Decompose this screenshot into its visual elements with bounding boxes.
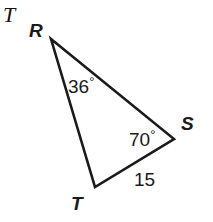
degree-symbol-icon: °	[150, 127, 155, 142]
vertex-label-r: R	[29, 21, 43, 40]
degree-symbol-icon: °	[89, 74, 94, 89]
triangle-rst-outline	[51, 39, 174, 187]
angle-s-value: 70	[129, 129, 150, 150]
angle-measure-r: 36°	[68, 77, 94, 96]
figure-tag-label: T	[3, 4, 15, 26]
vertex-label-s: S	[181, 114, 194, 133]
vertex-label-t: T	[71, 194, 83, 213]
geometry-figure: T R S T 36° 70° 15	[0, 0, 213, 222]
angle-measure-s: 70°	[129, 130, 155, 149]
side-length-ts: 15	[134, 170, 155, 189]
angle-r-value: 36	[68, 76, 89, 97]
